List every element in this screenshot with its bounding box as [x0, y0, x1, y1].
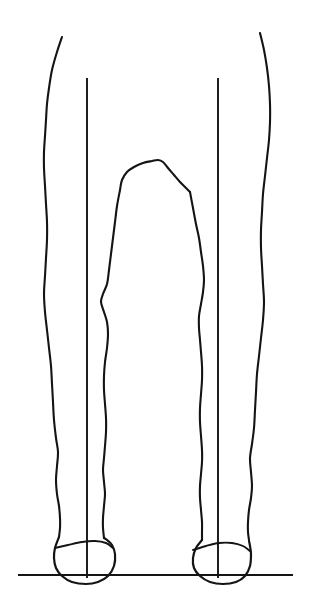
lower-limb-line-drawing — [0, 0, 311, 611]
anatomical-figure-canvas — [0, 0, 311, 611]
